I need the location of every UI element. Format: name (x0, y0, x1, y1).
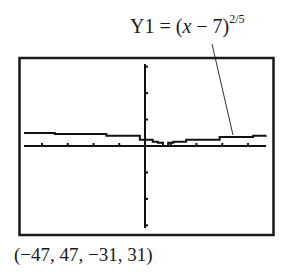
window-settings: (−47, 47, −31, 31) (14, 244, 153, 266)
axes (24, 64, 266, 228)
calculator-screen (0, 0, 297, 272)
